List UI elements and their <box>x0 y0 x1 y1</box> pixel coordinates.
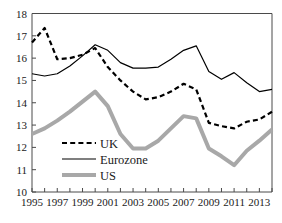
y-tick-label: 15 <box>16 74 28 86</box>
chart-canvas: 101112131415161718 199519971999200120032… <box>0 0 282 223</box>
y-tick-label: 14 <box>16 97 28 109</box>
legend-label-uk: UK <box>100 137 118 151</box>
x-tick-label: 1999 <box>72 196 95 208</box>
x-tick-label: 2007 <box>173 196 196 208</box>
y-tick-label: 18 <box>16 8 28 20</box>
chart-legend: UKEurozoneUS <box>62 137 148 183</box>
y-tick-label: 17 <box>16 30 28 42</box>
y-tick-label: 13 <box>16 119 28 131</box>
series-line-eurozone <box>32 45 272 92</box>
x-tick-label: 2013 <box>248 196 271 208</box>
x-tick-label: 1997 <box>46 196 69 208</box>
line-chart: 101112131415161718 199519971999200120032… <box>0 0 282 223</box>
x-tick-label: 2005 <box>147 196 170 208</box>
x-tick-label: 2003 <box>122 196 145 208</box>
series-line-us <box>32 92 272 166</box>
series-group <box>32 28 272 165</box>
legend-label-eurozone: Eurozone <box>100 153 148 167</box>
x-axis-ticks: 1995199719992001200320052007200920112013 <box>21 188 272 208</box>
x-tick-label: 2001 <box>97 196 119 208</box>
y-tick-label: 11 <box>16 164 27 176</box>
y-tick-label: 16 <box>16 52 28 64</box>
y-axis-ticks: 101112131415161718 <box>16 8 36 199</box>
x-tick-label: 2011 <box>223 196 245 208</box>
y-tick-label: 12 <box>16 141 27 153</box>
x-tick-label: 2009 <box>198 196 221 208</box>
legend-label-us: US <box>100 169 116 183</box>
x-tick-label: 1995 <box>21 196 44 208</box>
